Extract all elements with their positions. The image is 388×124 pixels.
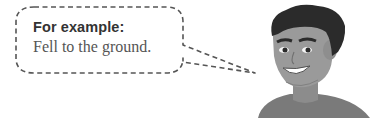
example-illustration: For example: Fell to the ground. — [0, 0, 388, 124]
speech-bubble: For example: Fell to the ground. — [33, 18, 151, 57]
example-sentence: Fell to the ground. — [33, 37, 151, 57]
man-avatar-icon — [258, 5, 370, 118]
example-heading: For example: — [33, 18, 151, 36]
